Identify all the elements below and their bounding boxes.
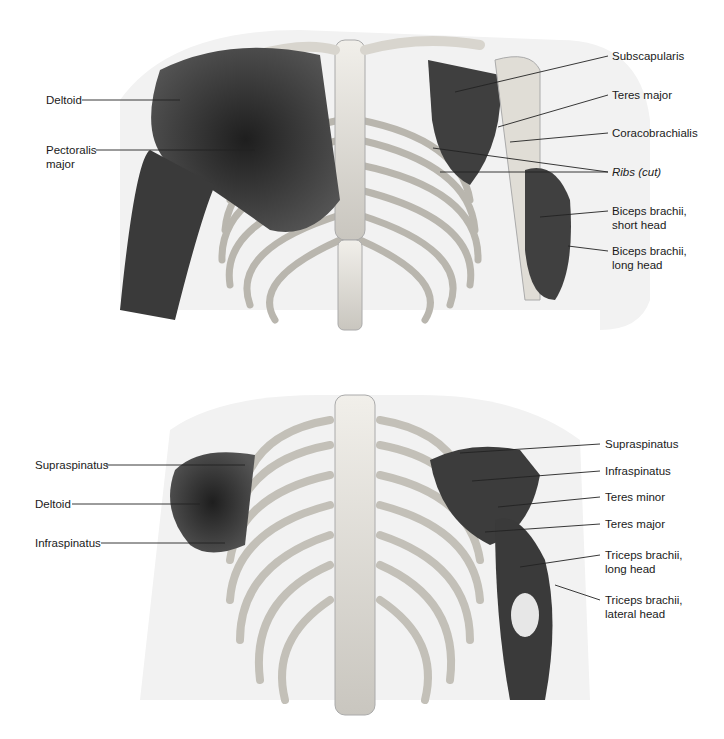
posterior-torso	[140, 395, 590, 715]
label-teres-major-anterior: Teres major	[612, 88, 672, 102]
label-supraspinatus-right: Supraspinatus	[605, 437, 679, 451]
label-coracobrachialis: Coracobrachialis	[612, 126, 698, 140]
label-deltoid-anterior: Deltoid	[46, 93, 82, 107]
label-ribs-cut: Ribs (cut)	[612, 165, 661, 179]
label-biceps-short-head: Biceps brachii, short head	[612, 204, 687, 232]
label-infraspinatus-right: Infraspinatus	[605, 464, 671, 478]
label-infraspinatus-left: Infraspinatus	[35, 536, 101, 550]
label-triceps-lateral-head: Triceps brachii, lateral head	[605, 593, 683, 621]
anterior-torso	[120, 30, 650, 330]
anatomy-illustration	[0, 0, 724, 739]
label-pectoralis-major: Pectoralis major	[46, 143, 97, 171]
label-subscapularis: Subscapularis	[612, 49, 684, 63]
label-biceps-long-head: Biceps brachii, long head	[612, 244, 687, 272]
label-teres-minor: Teres minor	[605, 490, 665, 504]
label-supraspinatus-left: Supraspinatus	[35, 458, 109, 472]
label-deltoid-posterior: Deltoid	[35, 497, 71, 511]
label-teres-major-posterior: Teres major	[605, 517, 665, 531]
label-triceps-long-head: Triceps brachii, long head	[605, 548, 683, 576]
